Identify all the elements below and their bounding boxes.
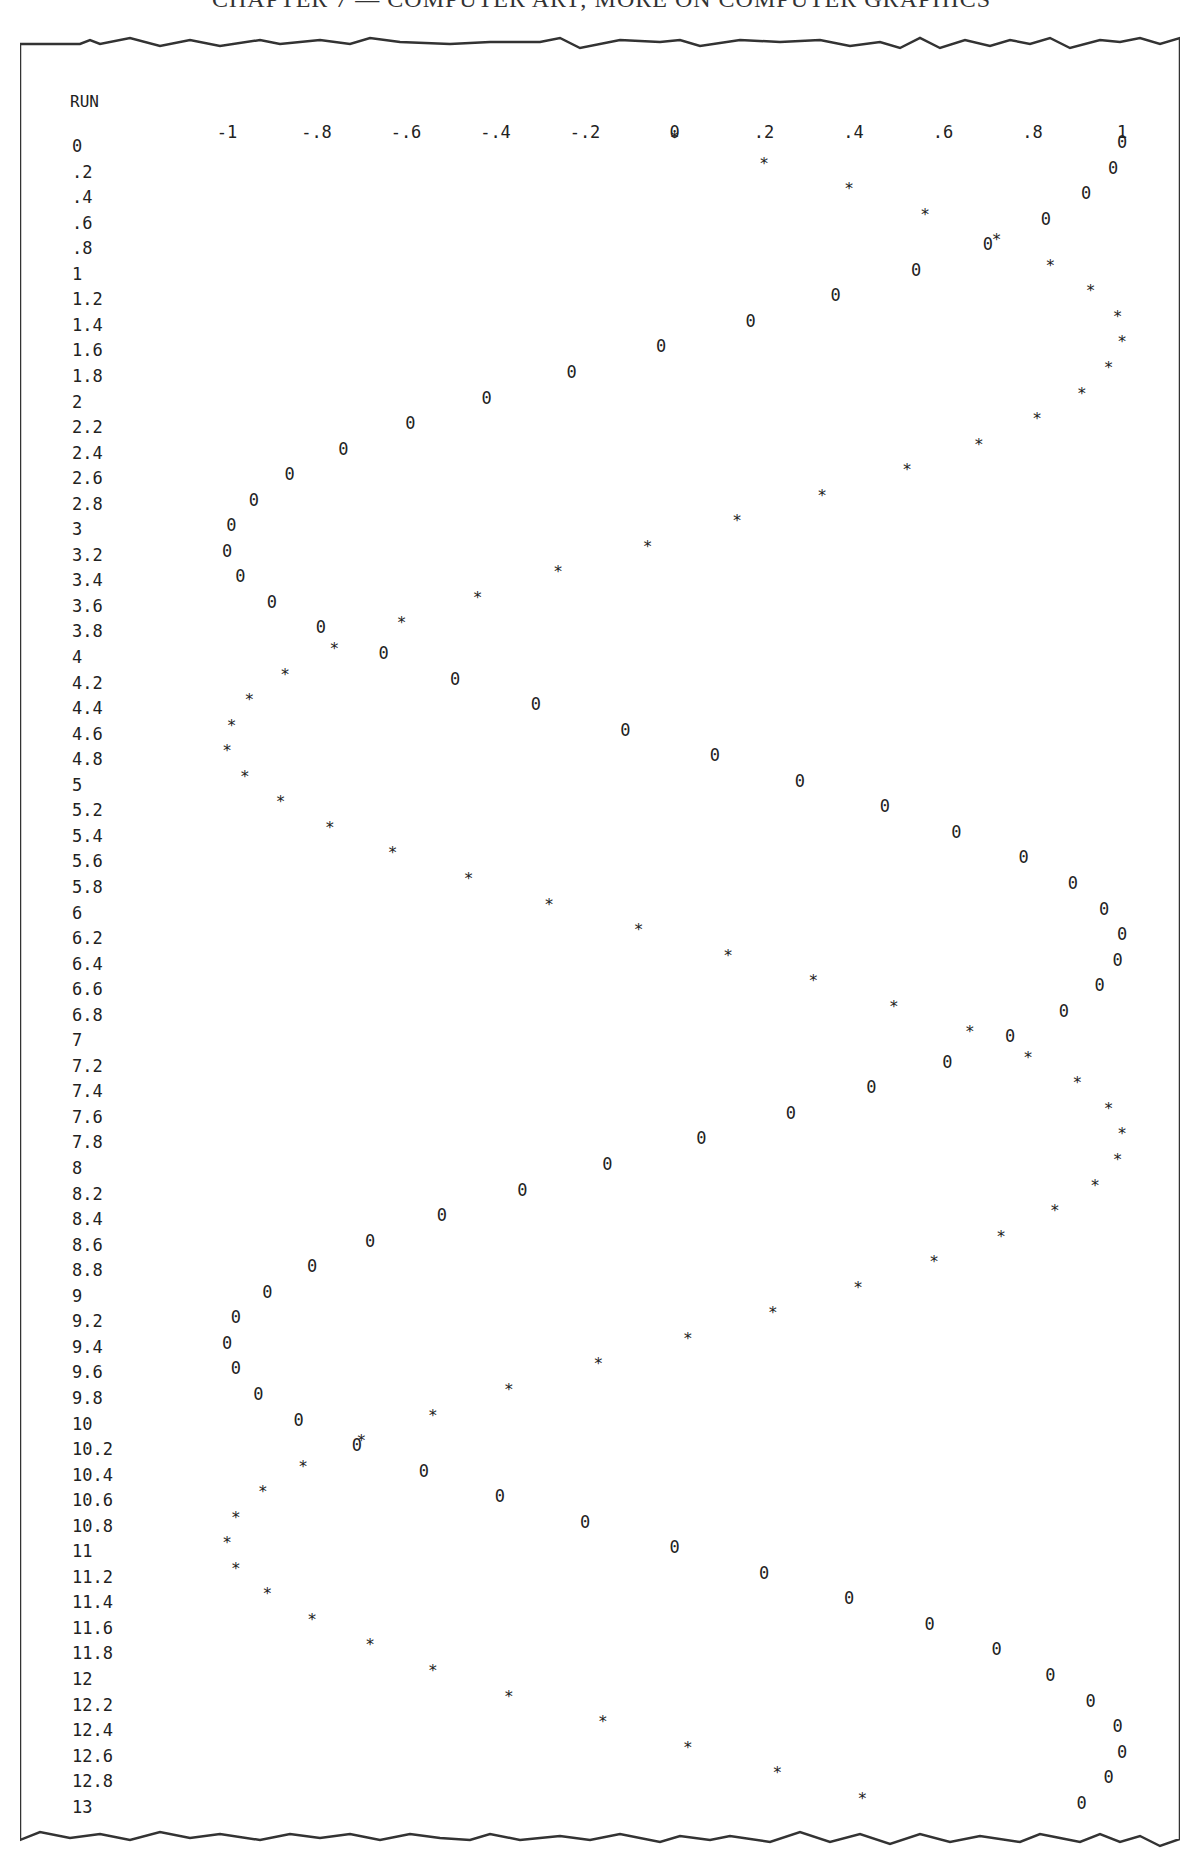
run-row-label: 5.2 [72,800,103,820]
run-row-label: 6.8 [72,1005,103,1025]
cosine-point-marker: 0 [620,722,630,739]
cosine-point-marker: 0 [235,568,245,585]
run-row-label: 6 [72,903,82,923]
cosine-point-marker: 0 [710,747,720,764]
run-row-label: 1.2 [72,289,103,309]
sine-point-marker: * [965,1024,975,1040]
sine-point-marker: * [1077,386,1087,402]
cosine-point-marker: 0 [1068,875,1078,892]
sine-point-marker: * [1023,1050,1033,1066]
sine-point-marker: * [670,130,680,146]
sine-point-marker: * [428,1663,438,1679]
sine-point-marker: * [307,1612,317,1628]
cosine-point-marker: 0 [517,1182,527,1199]
sine-point-marker: * [553,564,563,580]
cosine-point-marker: 0 [226,517,236,534]
run-row-label: 7 [72,1030,82,1050]
sine-point-marker: * [974,437,984,453]
run-row-label: 2.6 [72,468,103,488]
run-row-label: 3.2 [72,545,103,565]
run-row-label: 10.2 [72,1439,113,1459]
cosine-point-marker: 0 [1045,1667,1055,1684]
sine-point-marker: * [992,232,1002,248]
cosine-point-marker: 0 [1117,1744,1127,1761]
sine-point-marker: * [245,692,255,708]
sine-point-marker: * [330,641,340,657]
cosine-point-marker: 0 [866,1079,876,1096]
run-row-label: 2.8 [72,494,103,514]
run-row-label: 5.8 [72,877,103,897]
run-row-label: 13 [72,1797,92,1817]
run-row-label: 1.4 [72,315,103,335]
x-tick-label: -.6 [391,122,422,142]
cosine-point-marker: 0 [786,1105,796,1122]
cosine-point-marker: 0 [602,1156,612,1173]
sine-point-marker: * [544,897,554,913]
cosine-point-marker: 0 [450,671,460,688]
run-row-label: 9.2 [72,1311,103,1331]
sine-point-marker: * [1113,1152,1123,1168]
run-row-label: .6 [72,213,92,233]
run-row-label: 4.8 [72,749,103,769]
cosine-point-marker: 0 [911,262,921,279]
cosine-point-marker: 0 [262,1284,272,1301]
cosine-point-marker: 0 [531,696,541,713]
cosine-point-marker: 0 [495,1488,505,1505]
sine-point-marker: * [1086,283,1096,299]
cosine-point-marker: 0 [745,313,755,330]
sine-point-marker: * [902,462,912,478]
sine-point-marker: * [464,871,474,887]
sine-point-marker: * [1104,360,1114,376]
cosine-point-marker: 0 [365,1233,375,1250]
sine-point-marker: * [594,1356,604,1372]
cosine-point-marker: 0 [1117,926,1127,943]
run-row-label: 3 [72,519,82,539]
cosine-point-marker: 0 [316,619,326,636]
run-row-label: .2 [72,162,92,182]
sine-point-marker: * [231,1561,241,1577]
sine-point-marker: * [1032,411,1042,427]
x-tick-label: .4 [843,122,863,142]
run-row-label: 2 [72,392,82,412]
run-row-label: 1 [72,264,82,284]
run-row-label: 12.4 [72,1720,113,1740]
run-row-label: 4 [72,647,82,667]
sine-point-marker: * [227,718,237,734]
run-row-label: 3.6 [72,596,103,616]
run-row-label: 8 [72,1158,82,1178]
sine-point-marker: * [504,1382,514,1398]
sine-point-marker: * [365,1637,375,1653]
cosine-point-marker: 0 [656,338,666,355]
cosine-point-marker: 0 [1112,952,1122,969]
cosine-point-marker: 0 [222,1335,232,1352]
cosine-point-marker: 0 [1018,849,1028,866]
sine-point-marker: * [428,1408,438,1424]
sine-point-marker: * [231,1510,241,1526]
cosine-point-marker: 0 [293,1412,303,1429]
x-tick-label: .8 [1022,122,1042,142]
cosine-point-marker: 0 [285,466,295,483]
run-row-label: 10.6 [72,1490,113,1510]
sine-point-marker: * [1090,1178,1100,1194]
run-row-label: 7.8 [72,1132,103,1152]
sine-point-marker: * [889,999,899,1015]
run-axis-label: RUN [70,92,99,111]
sine-point-marker: * [276,794,286,810]
run-row-label: .8 [72,238,92,258]
sine-point-marker: * [1117,1126,1127,1142]
cosine-point-marker: 0 [983,236,993,253]
cosine-point-marker: 0 [1103,1769,1113,1786]
cosine-point-marker: 0 [951,824,961,841]
run-row-label: 10.4 [72,1465,113,1485]
x-tick-label: -1 [217,122,237,142]
x-tick-label: .2 [754,122,774,142]
run-row-label: 2.2 [72,417,103,437]
sine-point-marker: * [773,1765,783,1781]
sine-cosine-printout-plot: RUN -1-.8-.6-.4-.20.2.4.6.81 0*0.2*0.4*0… [0,0,1203,1872]
sine-point-marker: * [732,513,742,529]
run-row-label: 12.8 [72,1771,113,1791]
sine-point-marker: * [683,1740,693,1756]
run-row-label: 0 [72,136,82,156]
sine-point-marker: * [1117,334,1127,350]
cosine-point-marker: 0 [249,492,259,509]
